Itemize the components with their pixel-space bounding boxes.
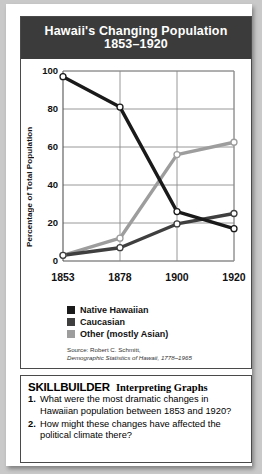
- question-1-number: 1.: [28, 394, 40, 418]
- legend-label-native-hawaiian: Native Hawaiian: [80, 305, 149, 315]
- legend-item-other: Other (mostly Asian): [67, 329, 251, 339]
- series-point: [60, 252, 66, 258]
- legend-item-caucasian: Caucasian: [67, 317, 251, 327]
- legend-label-other: Other (mostly Asian): [80, 329, 168, 339]
- series-point: [174, 152, 180, 158]
- page-root: Hawaii's Changing Population 1853–1920 P…: [0, 0, 262, 474]
- x-tick-label: 1920: [222, 271, 246, 283]
- legend-swatch-other: [67, 330, 75, 338]
- chart-legend: Native Hawaiian Caucasian Other (mostly …: [21, 305, 251, 363]
- series-point: [174, 209, 180, 215]
- figure-title-line2: 1853–1920: [104, 38, 168, 52]
- question-2-number: 2.: [28, 419, 40, 443]
- x-tick-label: 1853: [51, 271, 75, 283]
- series-point: [117, 245, 123, 251]
- figure-title-line1: Hawaii's Changing Population: [45, 25, 228, 39]
- x-tick-label: 1900: [165, 271, 189, 283]
- figure-title-bar: Hawaii's Changing Population 1853–1920: [21, 17, 251, 59]
- series-point: [231, 211, 237, 217]
- x-tick-label: 1878: [108, 271, 132, 283]
- y-tick-label: 80: [47, 103, 58, 114]
- source-line-1: Source: Robert C. Schmitt,: [67, 346, 251, 354]
- series-line: [63, 77, 234, 229]
- source-citation: Source: Robert C. Schmitt, Demographic S…: [67, 346, 251, 363]
- skillbuilder-question-2: 2. How might these changes have affected…: [28, 419, 244, 443]
- graph-panel: Hawaii's Changing Population 1853–1920 P…: [20, 16, 252, 369]
- skillbuilder-title: SKILLBUILDER: [28, 381, 110, 393]
- source-line-2: Demographic Statistics of Hawaii, 1778–1…: [67, 354, 251, 362]
- y-tick-label: 40: [47, 179, 58, 190]
- y-tick-label: 100: [42, 65, 58, 76]
- skillbuilder-subtitle: Interpreting Graphs: [116, 382, 208, 393]
- series-point: [231, 226, 237, 232]
- plot-area: Percentage of Total Population 020406080…: [21, 59, 251, 304]
- legend-item-native-hawaiian: Native Hawaiian: [67, 305, 251, 315]
- skillbuilder-question-1: 1. What were the most dramatic changes i…: [28, 394, 244, 418]
- series-point: [117, 235, 123, 241]
- series-point: [174, 221, 180, 227]
- question-1-text: What were the most dramatic changes in H…: [40, 394, 244, 418]
- population-line-chart: 0204060801001853187819001920: [21, 59, 250, 304]
- legend-label-caucasian: Caucasian: [80, 317, 125, 327]
- question-2-text: How might these changes have affected th…: [40, 419, 244, 443]
- legend-swatch-caucasian: [67, 318, 75, 326]
- y-tick-label: 20: [47, 217, 58, 228]
- series-point: [231, 139, 237, 145]
- y-tick-label: 60: [47, 141, 58, 152]
- series-point: [117, 104, 123, 110]
- series-point: [60, 74, 66, 80]
- y-tick-label: 0: [53, 255, 58, 266]
- legend-swatch-native-hawaiian: [67, 306, 75, 314]
- skillbuilder-header: SKILLBUILDER Interpreting Graphs: [28, 381, 244, 393]
- figure-card: Hawaii's Changing Population 1853–1920 P…: [6, 4, 252, 466]
- skillbuilder-panel: SKILLBUILDER Interpreting Graphs 1. What…: [20, 375, 252, 463]
